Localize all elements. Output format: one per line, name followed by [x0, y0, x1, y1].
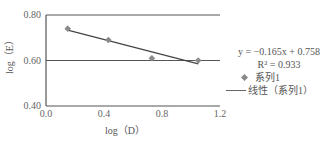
line-icon — [226, 90, 246, 91]
y-tick-label: 0.80 — [24, 9, 42, 20]
x-axis-label: log（D） — [105, 125, 145, 136]
x-tick-label: 0.4 — [98, 108, 111, 119]
x-tick-label: 0.8 — [156, 108, 169, 119]
legend-item-trendline: 线性（系列1） — [226, 84, 332, 97]
trendline-r2: R² = 0.933 — [226, 58, 332, 71]
trendline — [68, 30, 199, 64]
y-axis-label: log（E） — [4, 35, 15, 74]
x-tick-label: 1.2 — [214, 108, 227, 119]
y-tick-label: 0.40 — [24, 100, 42, 111]
data-point — [105, 37, 112, 44]
legend-item-series1: 系列1 — [226, 71, 332, 84]
y-tick-label: 0.60 — [24, 55, 42, 66]
trendline-equation: y = −0.165x + 0.758 — [226, 45, 332, 58]
diamond-marker-icon — [241, 74, 248, 81]
x-tick-label: 0.0 — [40, 108, 53, 119]
legend: y = −0.165x + 0.758 R² = 0.933 系列1 线性（系列… — [226, 45, 332, 97]
